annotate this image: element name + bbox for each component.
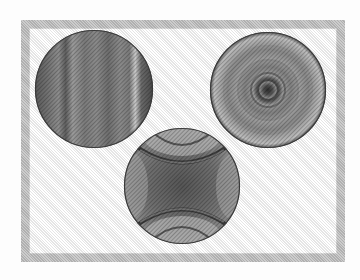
figure-canvas bbox=[0, 0, 360, 280]
circle-right-concentric-rings bbox=[210, 32, 326, 148]
circle-left-vertical-bands bbox=[35, 30, 153, 148]
